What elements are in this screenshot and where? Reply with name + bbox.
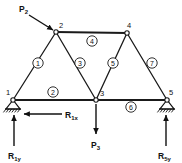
member-badge-label-3: 3 [78, 60, 82, 67]
labels-layer: P2P3R1xR1yR5y12345 [6, 4, 173, 162]
joint-label-2: 2 [59, 21, 63, 30]
truss-joint-2 [54, 30, 58, 34]
member-badge-3: 3 [75, 58, 85, 68]
member-badge-label-5: 5 [111, 60, 115, 67]
joint-label-4: 4 [127, 21, 131, 30]
truss-member-4 [56, 32, 127, 33]
truss-joint-4 [125, 31, 129, 35]
member-badge-label-1: 1 [36, 60, 40, 67]
reaction-label-R1y: R1y [8, 151, 21, 162]
member-badge-2: 2 [48, 87, 58, 97]
member-badge-1: 1 [33, 58, 43, 68]
member-badge-4: 4 [87, 36, 97, 46]
supports-layer [3, 100, 175, 112]
truss-diagram-canvas: 1234567 P2P3R1xR1yR5y12345 [0, 0, 182, 163]
truss-joint-1 [11, 98, 15, 102]
member-badge-label-7: 7 [150, 60, 154, 67]
load-label-P3: P3 [91, 140, 101, 151]
load-arrow-P2 [29, 15, 53, 30]
member-badge-label-4: 4 [90, 38, 94, 45]
forces-layer [14, 15, 166, 146]
truss-diagram-figure: 1234567 P2P3R1xR1yR5y12345 [0, 0, 182, 163]
truss-joint-3 [94, 98, 98, 102]
member-badge-6: 6 [126, 102, 136, 112]
member-badge-5: 5 [108, 58, 118, 68]
reaction-label-R5y: R5y [158, 151, 171, 162]
member-badge-label-6: 6 [129, 104, 133, 111]
joint-label-1: 1 [6, 88, 10, 97]
reaction-label-R1x: R1x [65, 110, 78, 121]
member-badge-label-2: 2 [51, 89, 55, 96]
joint-label-3: 3 [100, 89, 104, 98]
member-badge-7: 7 [147, 58, 157, 68]
joint-label-5: 5 [169, 88, 173, 97]
truss-member-7 [127, 33, 167, 100]
load-label-P2: P2 [19, 4, 29, 15]
truss-joint-5 [165, 98, 169, 102]
